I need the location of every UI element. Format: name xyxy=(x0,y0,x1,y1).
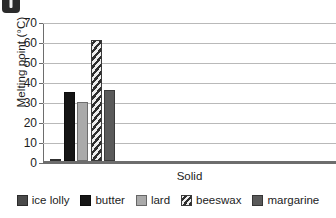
exclamation-badge xyxy=(2,0,20,13)
legend-label: butter xyxy=(95,194,124,206)
y-tick-mark xyxy=(39,123,43,124)
legend-item-lard: lard xyxy=(136,194,170,206)
bar-lard xyxy=(77,102,88,161)
y-tick-label: 40 xyxy=(0,76,37,90)
legend-swatch-icon xyxy=(252,195,263,206)
x-axis-title: Solid xyxy=(43,170,336,182)
bar-margarine xyxy=(104,90,115,161)
y-tick-mark xyxy=(39,43,43,44)
y-tick-label: 50 xyxy=(0,56,37,70)
plot-area xyxy=(43,23,336,163)
legend-label: margarine xyxy=(267,194,319,206)
gridline xyxy=(43,163,336,164)
y-tick-mark xyxy=(39,83,43,84)
chart-legend: ice lollybutterlardbeeswaxmargarine xyxy=(0,194,336,206)
legend-item-beeswax: beeswax xyxy=(181,194,241,206)
melting-point-bar-chart: Melting point (°C) 010203040506070 Solid… xyxy=(0,0,336,218)
y-tick-mark xyxy=(39,103,43,104)
y-tick-label: 20 xyxy=(0,116,37,130)
y-tick-label: 0 xyxy=(0,156,37,170)
legend-label: ice lolly xyxy=(32,194,70,206)
y-tick-mark xyxy=(39,163,43,164)
legend-item-ice-lolly: ice lolly xyxy=(17,194,70,206)
bar-ice-lolly xyxy=(50,159,61,161)
bar-beeswax xyxy=(91,40,102,161)
y-tick-label: 10 xyxy=(0,136,37,150)
bar-butter xyxy=(64,92,75,161)
legend-swatch-icon xyxy=(181,195,192,206)
legend-item-butter: butter xyxy=(80,194,124,206)
legend-swatch-icon xyxy=(80,195,91,206)
legend-item-margarine: margarine xyxy=(252,194,319,206)
legend-label: beeswax xyxy=(196,194,241,206)
legend-swatch-icon xyxy=(136,195,147,206)
y-tick-mark xyxy=(39,23,43,24)
y-tick-label: 70 xyxy=(0,16,37,30)
y-tick-mark xyxy=(39,63,43,64)
bar-group xyxy=(43,23,336,161)
legend-label: lard xyxy=(151,194,170,206)
exclamation-icon xyxy=(10,0,13,8)
y-tick-label: 60 xyxy=(0,36,37,50)
legend-swatch-icon xyxy=(17,195,28,206)
y-tick-mark xyxy=(39,143,43,144)
y-tick-label: 30 xyxy=(0,96,37,110)
